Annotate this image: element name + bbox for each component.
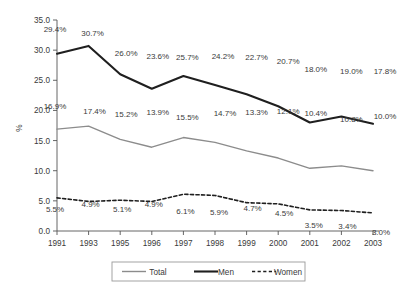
data-label-women: 4.7% [243,204,261,213]
data-label-total: 10.4% [304,109,327,118]
data-label-total: 15.5% [176,113,199,122]
data-label-women: 5.9% [210,208,228,217]
x-tick-label: 2003 [364,239,383,248]
data-label-women: 5.5% [46,205,64,214]
y-tick-label: 25.0 [34,76,50,85]
legend-label-women: Women [274,268,303,277]
data-label-men: 30.7% [81,29,104,38]
data-label-men: 20.7% [277,57,300,66]
data-label-total: 16.9% [44,102,67,111]
x-tick-label: 1998 [206,239,225,248]
data-label-total: 13.9% [146,108,169,117]
data-label-total: 15.2% [115,110,138,119]
data-label-men: 29.4% [44,25,67,34]
y-tick-label: 30.0 [34,46,50,55]
data-label-women: 4.5% [275,209,293,218]
data-label-women: 5.1% [113,205,131,214]
data-label-women: 3.5% [305,221,323,230]
x-tick-label: 1993 [79,239,98,248]
chart-container: 0.05.010.015.020.025.030.035.0%199119931… [0,0,404,291]
data-label-total: 14.7% [214,109,237,118]
x-tick-label: 2002 [332,239,351,248]
data-label-total: 10.0% [374,112,397,121]
data-label-women: 3.4% [338,222,356,231]
data-label-women: 4.9% [81,200,99,209]
y-tick-label: 15.0 [34,137,50,146]
x-tick-label: 1991 [48,239,67,248]
data-label-women: 3.0% [372,228,390,237]
x-tick-label: 1995 [111,239,130,248]
data-label-women: 4.9% [145,200,163,209]
data-label-men: 17.8% [374,67,397,76]
series-line-total [57,126,373,171]
data-label-total: 10.8% [340,115,363,124]
data-label-women: 6.1% [176,207,194,216]
line-chart: 0.05.010.015.020.025.030.035.0%199119931… [0,0,404,291]
x-tick-label: 2000 [269,239,288,248]
data-label-men: 24.2% [212,52,235,61]
y-tick-label: 35.0 [34,16,50,25]
x-tick-label: 1996 [143,239,162,248]
x-tick-label: 1999 [237,239,256,248]
data-label-total: 12.1% [277,107,300,116]
legend-label-men: Men [218,268,234,277]
y-tick-label: 10.0 [34,167,50,176]
data-label-men: 22.7% [245,53,268,62]
data-label-total: 13.3% [245,108,268,117]
data-label-men: 25.7% [176,53,199,62]
x-tick-label: 1997 [174,239,193,248]
legend-label-total: Total [149,268,166,277]
data-label-men: 18.0% [304,65,327,74]
y-axis-title: % [15,124,24,131]
data-label-men: 23.6% [146,52,169,61]
y-tick-label: 0.0 [39,227,51,236]
x-tick-label: 2001 [301,239,320,248]
data-label-men: 19.0% [340,67,363,76]
data-label-men: 26.0% [115,49,138,58]
data-label-total: 17.4% [83,107,106,116]
